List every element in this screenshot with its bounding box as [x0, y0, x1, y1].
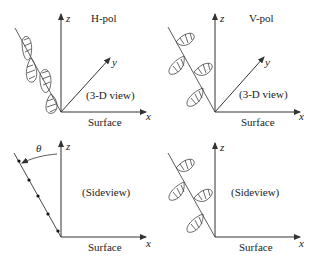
theta-label: θ [36, 142, 42, 154]
view-label: (Sideview) [231, 186, 280, 199]
z-axis-label: z [65, 12, 71, 24]
surface-label: Surface [88, 241, 122, 253]
surface-label: Surface [241, 116, 275, 128]
panel-v-pol-3d: z V-pol y (3-D view) Surface x [168, 12, 304, 128]
z-axis-label: z [219, 12, 225, 24]
y-axis-label: y [264, 56, 270, 68]
view-label: (3-D view) [86, 89, 135, 102]
z-axis-label: z [219, 141, 225, 153]
propagation-line [168, 27, 215, 112]
h-pol-wave [22, 36, 57, 113]
panel-v-pol-sideview: z (Sideview) Surface x [168, 141, 304, 253]
panel-h-pol-3d: z H-pol y (3-D view) Surface x [15, 12, 151, 128]
view-label: (Sideview) [82, 186, 131, 199]
surface-label: Surface [239, 241, 273, 253]
x-axis-label: x [145, 110, 151, 122]
polarization-diagram: z H-pol y (3-D view) Surface x z V-pol y… [0, 0, 314, 260]
y-axis [61, 58, 110, 112]
y-axis [215, 57, 264, 112]
view-label: (3-D view) [239, 88, 288, 101]
x-axis-label: x [145, 237, 151, 249]
x-axis-label: x [298, 237, 304, 249]
y-axis-label: y [111, 56, 117, 68]
x-axis-label: x [298, 110, 304, 122]
panel-title: V-pol [249, 12, 274, 24]
z-axis-label: z [65, 140, 71, 152]
surface-label: Surface [88, 116, 122, 128]
v-pol-wave-side [169, 159, 212, 232]
panel-h-pol-sideview: θ z (Sideview) Surface x [14, 140, 151, 253]
theta-arc-arrow [22, 154, 57, 163]
panel-title: H-pol [91, 12, 117, 24]
